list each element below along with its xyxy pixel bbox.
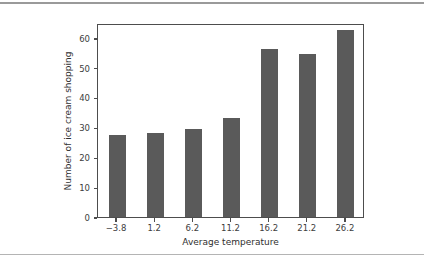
page-top-rule xyxy=(0,2,424,4)
y-tick-label: 30 xyxy=(0,124,90,133)
x-tick-label: −3.8 xyxy=(106,224,127,233)
x-tick-mark xyxy=(306,218,307,222)
y-tick-label: 0 xyxy=(0,214,90,223)
bar-chart-figure: Number of ice cream shopping 01020304050… xyxy=(0,5,424,253)
x-tick-mark xyxy=(268,218,269,222)
bar xyxy=(337,30,354,217)
bar xyxy=(147,133,164,217)
x-tick-label: 26.2 xyxy=(335,224,354,233)
x-tick-mark xyxy=(192,218,193,222)
x-tick-mark xyxy=(154,218,155,222)
y-tick-mark xyxy=(94,188,98,189)
y-tick-mark xyxy=(94,68,98,69)
y-tick-label: 20 xyxy=(0,154,90,163)
bar xyxy=(299,54,316,217)
bar xyxy=(223,118,240,217)
plot-area xyxy=(97,24,364,218)
y-tick-label: 40 xyxy=(0,94,90,103)
x-tick-label: 16.2 xyxy=(259,224,278,233)
y-tick-label: 60 xyxy=(0,35,90,44)
y-tick-label: 50 xyxy=(0,65,90,74)
bar xyxy=(261,49,278,217)
y-tick-mark xyxy=(94,98,98,99)
bar xyxy=(185,129,202,217)
y-tick-mark xyxy=(94,38,98,39)
x-tick-label: 11.2 xyxy=(221,224,240,233)
x-tick-mark xyxy=(344,218,345,222)
y-tick-mark xyxy=(94,217,98,218)
x-axis-label: Average temperature xyxy=(97,238,364,247)
y-tick-mark xyxy=(94,128,98,129)
x-tick-label: 6.2 xyxy=(186,224,200,233)
bar xyxy=(109,135,126,217)
x-tick-mark xyxy=(230,218,231,222)
x-tick-label: 1.2 xyxy=(147,224,161,233)
y-tick-label: 10 xyxy=(0,184,90,193)
page-bottom-rule xyxy=(0,254,424,255)
y-tick-mark xyxy=(94,158,98,159)
x-tick-label: 21.2 xyxy=(297,224,316,233)
x-tick-mark xyxy=(115,218,116,222)
bars-layer xyxy=(98,25,363,217)
